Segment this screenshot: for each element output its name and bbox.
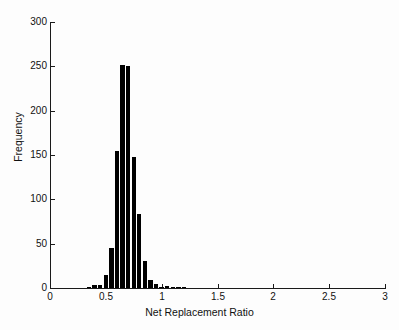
y-tick-label: 150 [30,150,47,160]
histogram-bar [92,285,96,288]
histogram-bar [115,151,119,288]
y-tick-label: 0 [41,283,47,293]
y-tick-label: 250 [30,61,47,71]
histogram-bar [137,214,141,288]
histogram-bar [154,284,158,288]
histogram-bar [109,248,113,288]
histogram-bar [104,275,108,288]
histogram-bars [50,22,385,288]
histogram-bar [143,261,147,288]
x-tick-label: 3 [382,291,388,302]
x-tick-label: 1 [159,291,165,302]
histogram-bar [182,287,186,288]
x-tick-mark [385,284,386,288]
x-tick-label: 2 [270,291,276,302]
histogram-bar [148,280,152,288]
histogram-bar [171,287,175,288]
histogram-bar [120,65,124,288]
x-axis-label: Net Replacement Ratio [0,306,399,318]
histogram-figure: 050100150200250300 00.511.522.53 Frequen… [0,0,399,330]
histogram-bar [87,287,91,288]
histogram-bar [176,287,180,288]
y-tick-label: 200 [30,106,47,116]
y-tick-label: 50 [36,239,47,249]
histogram-bar [165,286,169,288]
x-tick-label: 1.5 [211,291,225,302]
x-tick-label: 0 [47,291,53,302]
x-axis-line [50,288,386,289]
histogram-bar [159,287,163,288]
x-tick-label: 2.5 [322,291,336,302]
y-axis-label-wrapper: Frequency [8,77,26,197]
y-tick-label: 100 [30,194,47,204]
y-tick-mark [51,288,55,289]
y-tick-label: 300 [30,17,47,27]
histogram-bar [98,285,102,288]
x-tick-label: 0.5 [99,291,113,302]
histogram-bar [132,157,136,288]
histogram-bar [126,66,130,288]
y-axis-label: Frequency [12,112,24,162]
